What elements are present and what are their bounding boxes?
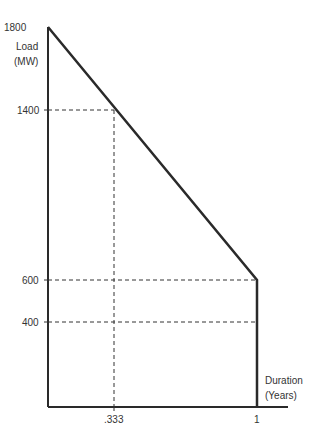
x-tick-label-1: 1 — [254, 414, 260, 425]
x-axis-label-line1: Duration — [265, 375, 303, 386]
x-tick-label-333: .333 — [104, 414, 124, 425]
y-tick-label-1400: 1400 — [17, 105, 40, 116]
y-axis-label-line2: (MW) — [14, 56, 38, 67]
load-curve — [48, 27, 257, 407]
y-axis-label-line1: Load — [16, 41, 38, 52]
y-tick-label-600: 600 — [22, 275, 39, 286]
y-tick-label-400: 400 — [22, 317, 39, 328]
load-duration-chart: 1800 1400 600 400 Load (MW) .333 1 Durat… — [0, 0, 321, 438]
x-axis-label-line2: (Years) — [265, 390, 297, 401]
y-tick-label-1800: 1800 — [4, 22, 27, 33]
